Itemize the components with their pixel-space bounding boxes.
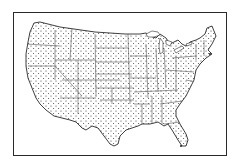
cape-cod-mark [209,53,211,55]
us-landmass [26,22,216,146]
florida-keys-mark [180,145,182,147]
us-map [0,0,240,168]
